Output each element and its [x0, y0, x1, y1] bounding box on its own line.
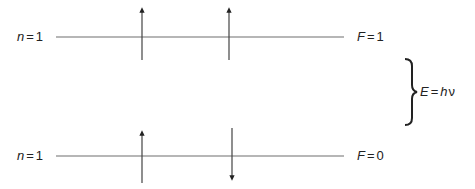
f-value: 1	[377, 29, 384, 44]
nu-var: ν	[448, 84, 456, 99]
f-var: F	[357, 148, 365, 163]
equals: =	[24, 29, 36, 44]
f-value: 0	[377, 148, 384, 163]
upper-n-label: n=1	[17, 29, 43, 45]
equals: =	[365, 148, 377, 163]
energy-brace-icon	[405, 59, 417, 125]
equals: =	[24, 148, 36, 163]
upper-f-label: F=1	[357, 29, 384, 45]
equals: =	[365, 29, 377, 44]
e-var: E	[420, 84, 429, 99]
energy-label: E=hν	[420, 84, 455, 100]
equals: =	[429, 84, 441, 99]
h-var: h	[440, 84, 447, 99]
diagram-canvas	[0, 0, 475, 189]
lower-level	[56, 128, 344, 183]
lower-n-label: n=1	[17, 148, 43, 164]
upper-level	[56, 10, 344, 60]
lower-f-label: F=0	[357, 148, 384, 164]
f-var: F	[357, 29, 365, 44]
n-value: 1	[36, 29, 43, 44]
n-value: 1	[36, 148, 43, 163]
spin-diagram: n=1 F=1 n=1 F=0 E=hν	[0, 0, 475, 189]
